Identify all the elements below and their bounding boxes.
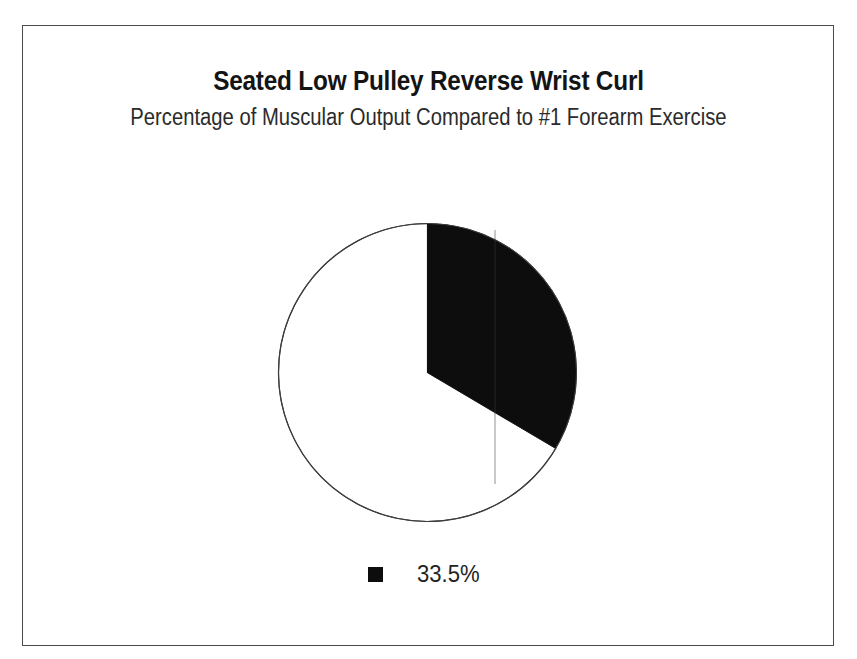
pie-chart (277, 222, 578, 523)
pie-chart-svg (277, 222, 578, 523)
legend-swatch-black (368, 567, 383, 582)
legend-item-label: 33.5% (417, 562, 480, 586)
chart-subtitle: Percentage of Muscular Output Compared t… (51, 104, 805, 131)
chart-title: Seated Low Pulley Reverse Wrist Curl (43, 66, 814, 97)
chart-legend: 33.5% (368, 562, 485, 586)
chart-page: Seated Low Pulley Reverse Wrist Curl Per… (0, 0, 857, 659)
